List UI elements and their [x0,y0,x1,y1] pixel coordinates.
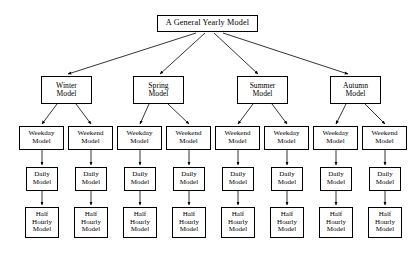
node-d5[interactable]: Daily Model [222,167,254,191]
node-h8[interactable]: Half Hourly Model [368,207,402,238]
node-dt5[interactable]: Weekend Model [215,126,260,150]
node-d3[interactable]: Daily Model [124,167,156,191]
node-d8[interactable]: Daily Model [369,167,401,191]
edge-root-to-spring [160,33,205,74]
edge-winter-to-dt2 [76,104,91,124]
node-h5[interactable]: Half Hourly Model [221,207,255,238]
node-root[interactable]: A General Yearly Model [157,15,258,32]
edge-spring-to-dt3 [140,104,149,124]
node-d4[interactable]: Daily Model [173,167,205,191]
edge-root-to-winter [68,33,196,74]
edge-winter-to-dt1 [42,104,57,124]
node-d2[interactable]: Daily Model [75,167,107,191]
edge-autumn-to-dt8 [365,104,385,124]
node-h4[interactable]: Half Hourly Model [172,207,206,238]
node-h6[interactable]: Half Hourly Model [270,207,304,238]
edge-autumn-to-dt7 [336,104,346,124]
node-h3[interactable]: Half Hourly Model [123,207,157,238]
edge-summer-to-dt6 [272,104,287,124]
node-dt6[interactable]: Weekday Model [264,126,309,150]
node-autumn[interactable]: Autumn Model [330,76,381,104]
node-dt2[interactable]: Weekend Model [68,126,113,150]
node-h2[interactable]: Half Hourly Model [74,207,108,238]
edge-spring-to-dt4 [168,104,189,124]
edge-summer-to-dt5 [238,104,253,124]
node-dt7[interactable]: Weekday Model [313,126,358,150]
node-h7[interactable]: Half Hourly Model [319,207,353,238]
node-dt8[interactable]: Weekend Model [362,126,407,150]
node-dt4[interactable]: Weekend Model [166,126,211,150]
node-d7[interactable]: Daily Model [320,167,352,191]
diagram-canvas: A General Yearly ModelWinter ModelSpring… [0,0,411,254]
edge-root-to-autumn [223,33,348,74]
node-d1[interactable]: Daily Model [26,167,58,191]
node-summer[interactable]: Summer Model [237,76,288,104]
node-d6[interactable]: Daily Model [271,167,303,191]
node-dt1[interactable]: Weekday Model [19,126,64,150]
node-dt3[interactable]: Weekday Model [117,126,162,150]
edge-root-to-summer [214,33,258,74]
node-spring[interactable]: Spring Model [133,76,184,104]
node-h1[interactable]: Half Hourly Model [25,207,59,238]
node-winter[interactable]: Winter Model [41,76,92,104]
